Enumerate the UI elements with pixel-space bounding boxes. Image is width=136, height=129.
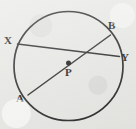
- point-label-p: P: [65, 67, 72, 78]
- chord-segment-xy: [18, 44, 120, 57]
- point-label-y: Y: [121, 52, 129, 63]
- diagram-canvas: [0, 0, 136, 129]
- center-point-dot: [66, 61, 71, 66]
- point-label-b: B: [108, 20, 115, 31]
- point-label-a: A: [16, 93, 24, 104]
- point-label-x: X: [4, 35, 12, 46]
- circle-geometry-figure: X B Y A P: [0, 0, 136, 129]
